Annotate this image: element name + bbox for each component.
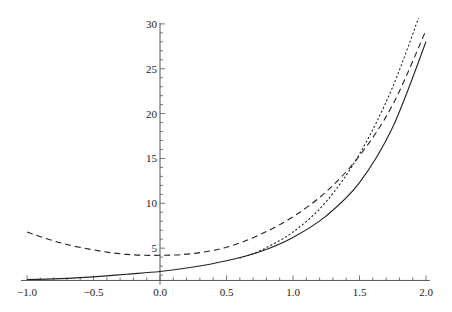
line-chart: −1.0−0.50.00.51.01.52.0 51015202530 xyxy=(0,0,452,312)
y-tick-label: 5 xyxy=(152,242,158,254)
x-tick-label: 2.0 xyxy=(419,286,433,298)
plot-series xyxy=(27,0,426,280)
x-tick-label: 0.5 xyxy=(220,286,234,298)
y-tick-label: 25 xyxy=(146,63,158,75)
x-tick-label: −0.5 xyxy=(84,286,104,298)
series-solid-line xyxy=(27,42,426,280)
y-axis: 51015202530 xyxy=(146,18,165,285)
x-tick-label: 1.5 xyxy=(353,286,367,298)
x-tick-label: 0.0 xyxy=(153,286,167,298)
x-axis: −1.0−0.50.00.51.01.52.0 xyxy=(17,275,433,298)
y-tick-label: 30 xyxy=(146,18,158,30)
y-tick-label: 20 xyxy=(146,108,158,120)
y-tick-label: 10 xyxy=(146,197,158,209)
series-dashed-line xyxy=(27,30,426,255)
series-dotted-line xyxy=(240,0,426,258)
y-tick-label: 15 xyxy=(146,152,158,164)
x-tick-label: 1.0 xyxy=(286,286,300,298)
x-tick-label: −1.0 xyxy=(17,286,37,298)
